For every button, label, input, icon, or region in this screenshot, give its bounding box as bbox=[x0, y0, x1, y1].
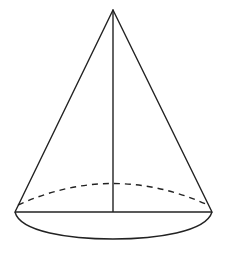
slant-edge-left bbox=[15, 10, 113, 212]
cone-diagram bbox=[0, 0, 225, 267]
base-front-arc bbox=[15, 212, 212, 239]
cone-figure bbox=[0, 0, 225, 267]
slant-edge-right bbox=[113, 10, 212, 212]
